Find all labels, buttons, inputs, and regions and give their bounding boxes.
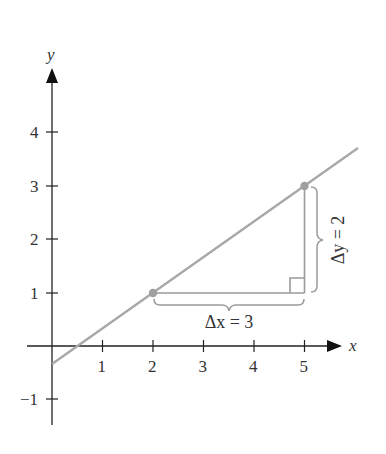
y-tick-label-1: 1 xyxy=(30,284,39,303)
x-tick-label-2: 2 xyxy=(148,357,157,376)
x-axis-label: x xyxy=(348,336,357,355)
x-axis-arrow-icon xyxy=(327,340,342,352)
point-5-3 xyxy=(300,182,308,190)
chart-canvas: y x 1 2 3 4 5 4 3 2 1 −1 Δx = 3 Δy = 2 xyxy=(0,0,386,454)
y-axis-arrow-icon xyxy=(46,68,58,83)
y-tick-label-neg1: −1 xyxy=(20,390,38,409)
y-tick-label-2: 2 xyxy=(30,230,39,249)
x-tick-label-5: 5 xyxy=(300,357,309,376)
y-tick-label-4: 4 xyxy=(30,123,39,142)
delta-y-label: Δy = 2 xyxy=(328,216,348,265)
delta-x-label: Δx = 3 xyxy=(205,312,254,332)
delta-y-brace xyxy=(311,187,323,292)
x-tick-label-4: 4 xyxy=(249,357,258,376)
x-tick-label-3: 3 xyxy=(199,357,208,376)
right-angle-marker xyxy=(290,278,305,293)
point-2-1 xyxy=(149,289,157,297)
y-axis-label: y xyxy=(45,45,55,64)
y-tick-label-3: 3 xyxy=(30,177,39,196)
delta-x-brace xyxy=(154,299,304,311)
x-tick-label-1: 1 xyxy=(98,357,107,376)
